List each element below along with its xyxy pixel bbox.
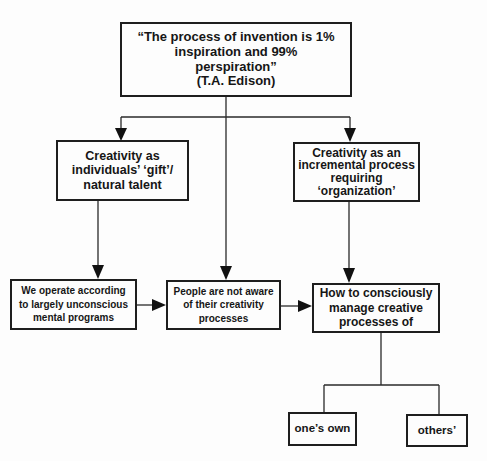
arrow-to-incremental: [344, 128, 356, 142]
own-text: one’s own: [295, 422, 351, 435]
incremental-box: Creativity as an incremental process req…: [293, 142, 420, 202]
arrow-not-aware-manage: [298, 300, 312, 312]
own-box: one’s own: [288, 412, 357, 446]
quote-text: “The process of invention is 1% inspirat…: [137, 30, 334, 90]
not-aware-text: People are not aware of their creativity…: [173, 285, 273, 326]
arrow-to-manage: [343, 268, 355, 283]
manage-text: How to consciously manage creative proce…: [320, 286, 433, 329]
unconscious-box: We operate according to largely unconsci…: [10, 279, 137, 330]
quote-box: “The process of invention is 1% inspirat…: [120, 22, 352, 97]
not-aware-box: People are not aware of their creativity…: [166, 280, 281, 330]
arrow-to-not-aware: [220, 266, 232, 280]
unconscious-text: We operate according to largely unconsci…: [19, 284, 128, 325]
manage-box: How to consciously manage creative proce…: [312, 283, 440, 333]
gift-text: Creativity as individuals’ ‘gift’/ natur…: [72, 149, 173, 192]
others-box: others’: [406, 414, 468, 447]
others-text: others’: [418, 424, 456, 437]
gift-box: Creativity as individuals’ ‘gift’/ natur…: [56, 140, 189, 201]
arrow-to-unconscious: [92, 265, 104, 279]
arrow-unconscious-not-aware: [152, 299, 166, 311]
incremental-text: Creativity as an incremental process req…: [298, 147, 415, 197]
